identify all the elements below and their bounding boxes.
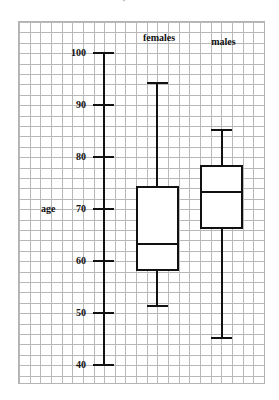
y-tick-label-40: 40 [56,359,86,371]
females-upper-whisker [156,83,158,187]
y-axis-title: age [41,203,55,215]
females-min-cap [147,305,168,307]
y-tick-label-60: 60 [56,255,86,267]
top-title-fragment: · [122,0,126,6]
y-tick-90 [93,104,114,106]
y-tick-label-90: 90 [56,99,86,111]
y-tick-label-50: 50 [56,307,86,319]
males-median-line [200,191,243,193]
males-upper-whisker [221,130,223,166]
y-tick-80 [93,156,114,158]
females-lower-whisker [156,270,158,306]
females-median-line [136,243,179,245]
y-tick-50 [93,312,114,314]
y-tick-70 [93,208,114,210]
y-tick-100 [93,52,114,54]
males-lower-whisker [221,228,223,337]
y-tick-label-70: 70 [56,203,86,215]
y-tick-60 [93,260,114,262]
y-tick-40 [93,364,114,366]
males-min-cap [211,337,232,339]
males-iqr-box [200,165,243,229]
y-tick-label-80: 80 [56,151,86,163]
females-iqr-box [136,186,179,271]
category-label-females: females [134,32,184,44]
category-label-males: males [199,36,249,48]
males-max-cap [211,129,232,131]
y-tick-label-100: 100 [56,47,86,59]
females-max-cap [147,82,168,84]
